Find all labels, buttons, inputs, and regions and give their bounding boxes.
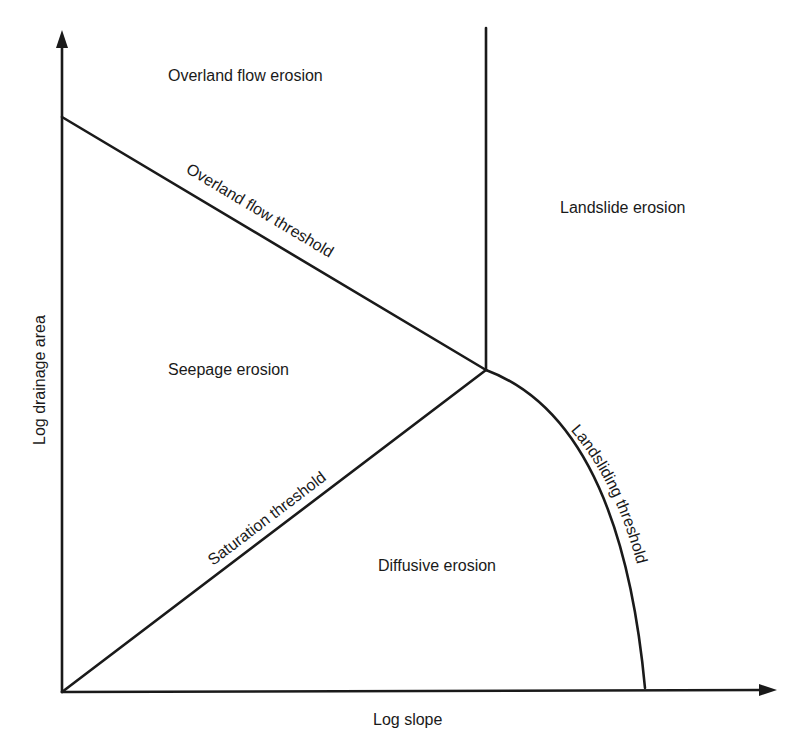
saturation-threshold-label: Saturation threshold [205, 468, 329, 568]
overland-flow-threshold-line [62, 117, 486, 370]
x-axis-label: Log slope [373, 711, 442, 728]
diffusive-erosion-label: Diffusive erosion [378, 557, 496, 574]
erosion-process-diagram: Overland flow erosion Landslide erosion … [0, 0, 798, 752]
landsliding-threshold-text: Landsliding threshold [568, 421, 650, 565]
x-axis [62, 690, 764, 692]
y-axis-label: Log drainage area [31, 315, 48, 445]
landsliding-threshold-label: Landsliding threshold [568, 421, 650, 565]
overland-flow-threshold-label: Overland flow threshold [183, 160, 336, 261]
x-axis-arrow-icon [759, 684, 777, 696]
landslide-erosion-label: Landslide erosion [560, 199, 685, 216]
saturation-threshold-line [62, 370, 486, 692]
seepage-erosion-label: Seepage erosion [168, 361, 289, 378]
overland-flow-erosion-label: Overland flow erosion [168, 67, 323, 84]
y-axis-arrow-icon [56, 30, 68, 48]
landsliding-threshold-curve [486, 370, 645, 688]
